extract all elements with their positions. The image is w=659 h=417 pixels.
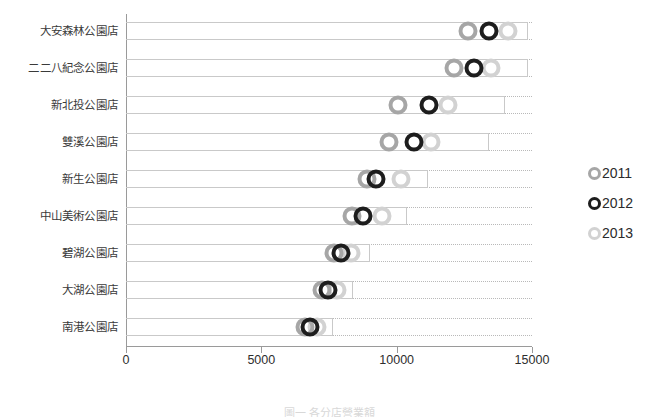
chart-row [126, 318, 532, 336]
category-label: 新生公園店 [62, 171, 118, 187]
category-label: 新北投公園店 [51, 97, 118, 113]
data-point-marker [420, 95, 439, 114]
data-point-marker [332, 243, 351, 262]
data-point-marker [439, 95, 458, 114]
chart-row [126, 207, 532, 225]
x-axis-tick-label: 5000 [247, 353, 275, 367]
data-point-marker [498, 21, 517, 40]
category-label: 大安森林公園店 [40, 23, 118, 39]
chart-row [126, 281, 532, 299]
data-point-marker [479, 21, 498, 40]
chart-row [126, 96, 532, 114]
chart-row [126, 170, 532, 188]
chart-legend: 201120122013 [588, 158, 659, 248]
chart-row [126, 59, 532, 77]
chart-row [126, 133, 532, 151]
circle-marker-icon [588, 227, 601, 240]
legend-label: 2011 [602, 165, 632, 181]
data-point-marker [459, 21, 478, 40]
x-axis-tick-label: 10000 [379, 353, 414, 367]
legend-item[interactable]: 2012 [588, 188, 659, 218]
legend-label: 2013 [602, 225, 633, 241]
chart-row [126, 22, 532, 40]
category-label: 大湖公園店 [62, 282, 118, 298]
data-point-marker [421, 132, 440, 151]
legend-item[interactable]: 2013 [588, 218, 659, 248]
category-label: 二二八紀念公園店 [28, 60, 118, 76]
data-point-marker [301, 317, 320, 336]
data-point-marker [482, 58, 501, 77]
category-label: 雙溪公園店 [62, 134, 118, 150]
data-point-marker [464, 58, 483, 77]
data-point-marker [391, 169, 410, 188]
chart-row [126, 244, 532, 262]
data-point-marker [353, 206, 372, 225]
circle-marker-icon [588, 167, 601, 180]
category-label: 中山美術公園店 [40, 208, 118, 224]
category-label: 碧湖公園店 [62, 245, 118, 261]
category-axis-labels: 大安森林公園店二二八紀念公園店新北投公園店雙溪公園店新生公園店中山美術公園店碧湖… [0, 14, 122, 347]
data-point-marker [372, 206, 391, 225]
legend-label: 2012 [602, 195, 633, 211]
x-axis-line [126, 346, 532, 347]
data-point-marker [318, 280, 337, 299]
x-axis-tick-label: 0 [123, 353, 130, 367]
data-point-marker [379, 132, 398, 151]
figure-caption: 圖一 各分店營業額 [0, 404, 659, 417]
x-axis-tick-label: 15000 [515, 353, 550, 367]
data-point-marker [444, 58, 463, 77]
circle-marker-icon [588, 197, 601, 210]
data-point-marker [367, 169, 386, 188]
plot-area [126, 14, 532, 347]
data-point-marker [405, 132, 424, 151]
chart-container: 大安森林公園店二二八紀念公園店新北投公園店雙溪公園店新生公園店中山美術公園店碧湖… [0, 0, 659, 417]
data-point-marker [389, 95, 408, 114]
category-label: 南港公園店 [62, 319, 118, 335]
legend-item[interactable]: 2011 [588, 158, 659, 188]
